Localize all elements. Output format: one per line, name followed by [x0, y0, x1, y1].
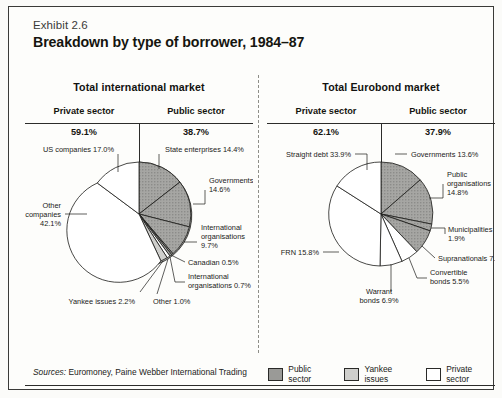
exhibit-number: Exhibit 2.6 [33, 19, 88, 31]
sector-value-row: 59.1% 38.7% [25, 124, 253, 142]
leader-convertible-bonds [409, 258, 427, 278]
label-warrant-2: bonds 6.9% [359, 296, 398, 305]
sources-label: Sources: [33, 367, 66, 377]
label-public-org-2: organisations [447, 179, 491, 188]
pie-svg: Straight debt 33.9% Governments 13.6% Pu… [267, 142, 495, 347]
label-convertible-2: bonds 5.5% [430, 277, 469, 286]
label-canadian: Canadian 0.5% [188, 258, 239, 267]
leader-supranationals [422, 246, 435, 258]
legend-label-yankee-issues: Yankee issues [364, 364, 415, 384]
label-us-companies: US companies 17.0% [43, 145, 114, 154]
legend-item-yankee-issues: Yankee issues [344, 364, 416, 384]
label-intl-org-small-1: International [188, 272, 229, 281]
sources-line: Sources: Euromoney, Paine Webber Interna… [33, 367, 247, 377]
label-other-companies-3: 42.1% [40, 219, 61, 228]
panel-international-market: Total international market Private secto… [25, 73, 253, 363]
exhibit-frame: Exhibit 2.6 Breakdown by type of borrowe… [8, 6, 494, 390]
label-frn: FRN 15.8% [281, 248, 320, 257]
sector-header-public: Public sector [141, 106, 251, 116]
label-intl-org-2: organisations [201, 232, 245, 241]
label-other: Other 1.0% [153, 297, 191, 306]
label-supranationals: Supranationals 7.6% [438, 254, 495, 263]
pie-chart-eurobond: Straight debt 33.9% Governments 13.6% Pu… [267, 142, 495, 347]
sector-value-public: 38.7% [141, 127, 251, 137]
label-other-companies-1: Other [43, 201, 62, 210]
sector-value-public: 37.9% [383, 127, 493, 137]
sector-header-public: Public sector [383, 106, 493, 116]
footer-rule [25, 385, 495, 386]
label-governments-2: 14.6% [209, 185, 230, 194]
label-straight-debt: Straight debt 33.9% [286, 150, 351, 159]
legend: Public sector Yankee issues Private sect… [268, 364, 495, 384]
label-intl-org-3: 9.7% [201, 241, 218, 250]
label-other-companies-2: companies [25, 210, 61, 219]
label-state-enterprises: State enterprises 14.4% [165, 145, 244, 154]
sector-value-row: 62.1% 37.9% [267, 124, 495, 142]
pie-slices-exact [67, 162, 191, 282]
legend-item-private-sector: Private sector [426, 364, 495, 384]
pie-slices [329, 162, 433, 266]
label-yankee-issues: Yankee issues 2.2% [69, 297, 136, 306]
leader-governments [193, 190, 205, 204]
label-warrant-1: Warrant [366, 287, 392, 296]
panel-title: Total Eurobond market [267, 81, 495, 93]
pie-svg: US companies 17.0% State enterprises 14.… [25, 142, 253, 347]
label-public-org-1: Public [447, 170, 467, 179]
legend-swatch-public-sector [268, 368, 283, 381]
legend-swatch-yankee-issues [344, 368, 359, 381]
pie-chart-international: US companies 17.0% State enterprises 14.… [25, 142, 253, 347]
legend-label-private-sector: Private sector [446, 364, 495, 384]
label-intl-org-small-2: organisations 0.7% [188, 281, 251, 290]
leader-canadian [171, 255, 185, 262]
label-public-org-3: 14.8% [447, 188, 468, 197]
leader-public-organisations [429, 184, 443, 198]
leader-municipalities [431, 228, 445, 234]
sector-value-private: 62.1% [271, 127, 381, 137]
page-title: Breakdown by type of borrower, 1984–87 [33, 34, 304, 50]
label-intl-org-1: International [201, 223, 242, 232]
legend-label-public-sector: Public sector [288, 364, 334, 384]
exhibit-page: Exhibit 2.6 Breakdown by type of borrowe… [0, 0, 502, 398]
panel-eurobond-market: Total Eurobond market Private sector Pub… [267, 73, 495, 363]
sector-header-private: Private sector [29, 106, 139, 116]
sources-text: Euromoney, Paine Webber International Tr… [68, 367, 246, 377]
sector-value-private: 59.1% [29, 127, 139, 137]
label-municipalities-2: 1.9% [448, 234, 465, 243]
legend-item-public-sector: Public sector [268, 364, 334, 384]
label-governments: Governments 13.6% [411, 150, 479, 159]
panel-title: Total international market [25, 81, 253, 93]
label-convertible-1: Convertible [430, 268, 467, 277]
label-municipalities-1: Municipalities [448, 225, 493, 234]
label-governments-1: Governments [209, 176, 253, 185]
sector-header-row: Private sector Public sector [25, 106, 253, 121]
legend-swatch-private-sector [426, 368, 441, 381]
panel-divider [258, 75, 259, 353]
footer: Sources: Euromoney, Paine Webber Interna… [25, 364, 495, 384]
sector-header-private: Private sector [271, 106, 381, 116]
sector-header-row: Private sector Public sector [267, 106, 495, 121]
